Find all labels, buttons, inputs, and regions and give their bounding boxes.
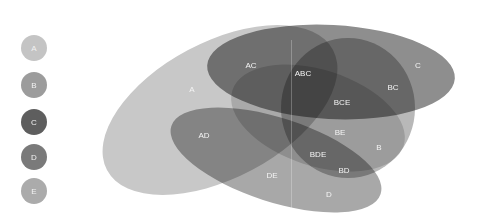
- region-label-de: DE: [266, 171, 277, 180]
- region-label-d: D: [326, 190, 332, 199]
- legend-item-c: C: [21, 109, 47, 135]
- legend-item-e: E: [21, 178, 47, 204]
- region-label-bc: BC: [387, 83, 398, 92]
- legend-label: E: [31, 187, 36, 196]
- legend-item-b: B: [21, 72, 47, 98]
- region-label-a: A: [189, 85, 194, 94]
- region-label-ad: AD: [198, 131, 209, 140]
- region-label-bce: BCE: [334, 98, 350, 107]
- region-label-abc: ABC: [295, 69, 311, 78]
- legend-item-a: A: [21, 35, 47, 61]
- venn-diagram: [0, 0, 480, 222]
- legend-label: C: [31, 118, 37, 127]
- legend-item-d: D: [21, 144, 47, 170]
- region-label-b: B: [376, 143, 381, 152]
- region-label-c: C: [415, 61, 421, 70]
- gridline: [291, 40, 292, 208]
- legend-label: B: [31, 81, 36, 90]
- region-label-bde: BDE: [310, 150, 326, 159]
- region-label-be: BE: [335, 128, 346, 137]
- legend-label: A: [31, 44, 36, 53]
- region-label-ac: AC: [245, 61, 256, 70]
- region-label-bd: BD: [338, 166, 349, 175]
- legend-label: D: [31, 153, 37, 162]
